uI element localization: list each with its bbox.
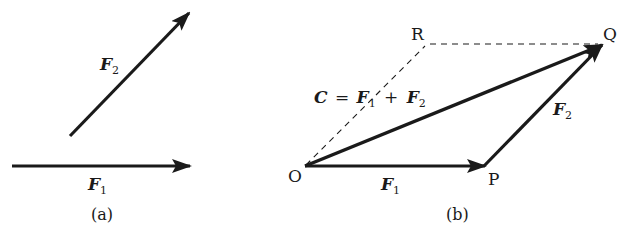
panel-b: O P Q R C = F1 + F2 F2 F1 (b) [288,24,617,224]
label-f1-a: F1 [87,174,107,197]
resultant-equation: C = F1 + F2 [314,87,426,111]
vector-f2-arrow-b [484,45,602,166]
caption-a: (a) [91,205,113,224]
point-label-r: R [411,24,425,44]
label-f1-b: F1 [380,174,400,197]
panel-a: F2 F1 (a) [12,13,190,224]
label-f2-b: F2 [552,99,572,122]
vector-addition-figure: F2 F1 (a) O P Q R C = F1 + F2 F2 F1 (b) [0,0,631,238]
vector-f2-arrow [70,13,189,136]
point-label-p: P [488,169,499,189]
caption-b: (b) [446,205,469,224]
point-label-q: Q [603,24,617,44]
label-f2-a: F2 [99,54,119,77]
point-label-o: O [288,166,302,186]
